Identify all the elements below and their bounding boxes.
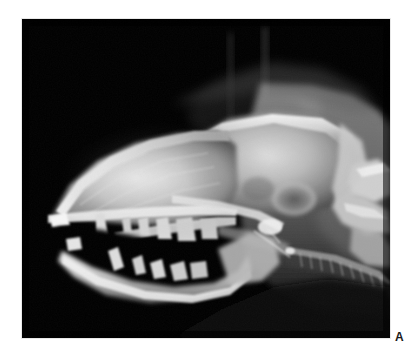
radiograph-layers xyxy=(22,19,390,338)
radiograph-image xyxy=(22,19,390,338)
figure-root: A xyxy=(0,0,412,353)
radiograph-panel xyxy=(22,19,390,338)
film-grain xyxy=(22,19,390,338)
panel-letter: A xyxy=(395,329,409,345)
